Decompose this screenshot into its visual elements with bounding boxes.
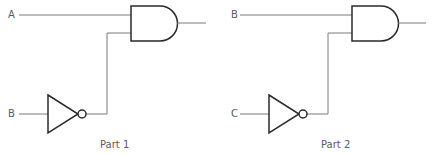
input-label-c: C [231,109,238,119]
not-gate-icon [48,95,78,133]
part-2-caption: Part 2 [321,140,350,150]
not-gate-icon [269,95,299,133]
logic-diagram [0,0,434,154]
input-label-b: B [231,10,238,20]
part-1-caption: Part 1 [100,140,129,150]
inverter-bubble-icon [78,110,86,118]
input-label-b: B [8,109,15,119]
not-to-and-wire [86,33,131,114]
part-2-circuit [240,6,426,133]
input-label-a: A [8,10,15,20]
part-1-circuit [19,6,206,133]
and-gate-icon [131,6,178,41]
inverter-bubble-icon [299,110,307,118]
not-to-and-wire [307,33,352,114]
and-gate-icon [352,6,399,41]
